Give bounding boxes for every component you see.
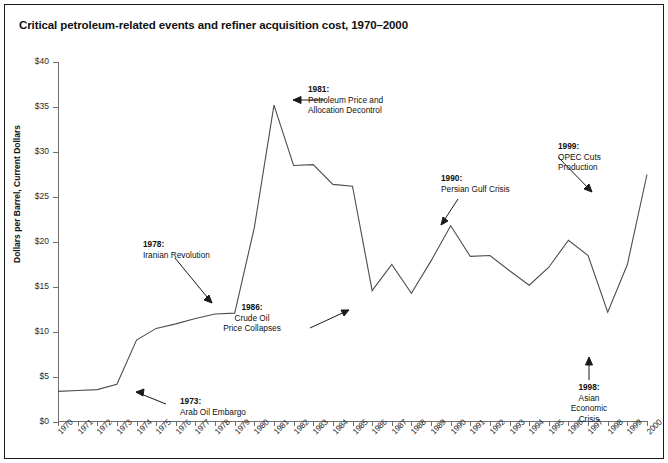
y-tick-label: $20	[35, 236, 49, 246]
annotation-1973-year: 1973:	[180, 396, 246, 407]
annotation-1999-year: 1999:	[558, 141, 601, 152]
leader-1978	[175, 258, 212, 303]
arrowhead-1981	[293, 97, 301, 104]
arrowhead-1990	[441, 217, 448, 225]
y-axis-label: Dollars per Barrel, Current Dollars	[12, 84, 22, 304]
chart-frame: Critical petroleum-related events and re…	[4, 4, 664, 459]
y-tick-label: $0	[40, 416, 49, 426]
annotation-1986-year: 1986:	[197, 302, 307, 313]
chart-title: Critical petroleum-related events and re…	[19, 19, 408, 31]
y-tick-label: $15	[35, 281, 49, 291]
arrowhead-1986	[341, 310, 349, 316]
annotation-1990-line1: Persian Gulf Crisis	[441, 184, 510, 194]
annotation-1981-line2: Allocation Decontrol	[308, 105, 382, 115]
arrowhead-1973	[136, 389, 144, 396]
annotation-1998-line3: Crisis	[579, 414, 600, 424]
annotation-1990: 1990: Persian Gulf Crisis	[441, 173, 510, 194]
annotation-1999-line1: OPEC Cuts	[558, 152, 601, 162]
annotation-1981-line1: Petroleum Price and	[308, 95, 383, 105]
annotation-1998-year: 1998:	[545, 382, 633, 393]
annotation-1998-line1: Asian	[579, 393, 600, 403]
annotation-1978-line1: Iranian Revolution	[143, 250, 210, 260]
annotation-1999-line2: Production	[558, 162, 598, 172]
y-tick-label: $25	[35, 191, 49, 201]
annotation-1981-year: 1981:	[308, 84, 383, 95]
annotation-1999: 1999: OPEC Cuts Production	[558, 141, 601, 173]
plot-area: $0$5$10$15$20$25$30$35$40 19701971197219…	[58, 62, 647, 422]
annotation-1986-line2: Price Collapses	[223, 323, 281, 333]
annotation-1986: 1986: Crude Oil Price Collapses	[197, 302, 307, 334]
y-tick-label: $30	[35, 146, 49, 156]
annotation-1998-line2: Economic	[571, 403, 607, 413]
arrowhead-1998	[586, 357, 593, 365]
annotation-1978-year: 1978:	[143, 239, 210, 250]
annotation-1990-year: 1990:	[441, 173, 510, 184]
annotation-1998: 1998: Asian Economic Crisis	[545, 382, 633, 424]
annotation-1973-line1: Arab Oil Embargo	[180, 407, 246, 417]
annotation-1986-line1: Crude Oil	[234, 313, 269, 323]
y-tick-label: $35	[35, 101, 49, 111]
annotation-1973: 1973: Arab Oil Embargo	[180, 396, 246, 417]
y-tick-label: $5	[40, 371, 49, 381]
annotation-1978: 1978: Iranian Revolution	[143, 239, 210, 260]
annotation-1981: 1981: Petroleum Price and Allocation Dec…	[308, 84, 383, 116]
y-tick-label: $40	[35, 56, 49, 66]
y-tick-label: $10	[35, 326, 49, 336]
